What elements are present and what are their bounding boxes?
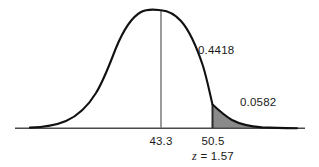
area-label-right: 0.0582 [240,97,276,109]
mean-tick-label: 43.3 [149,136,172,148]
cutoff-tick-label: 50.5 [201,136,224,148]
z-score-label: z = 1.57 [192,150,234,163]
normal-curve-figure: 0.4418 0.0582 43.3 50.5 z = 1.57 [0,0,319,167]
bell-curve-path [30,9,297,128]
area-label-left: 0.4418 [198,45,234,57]
z-value-text: = 1.57 [197,150,234,162]
